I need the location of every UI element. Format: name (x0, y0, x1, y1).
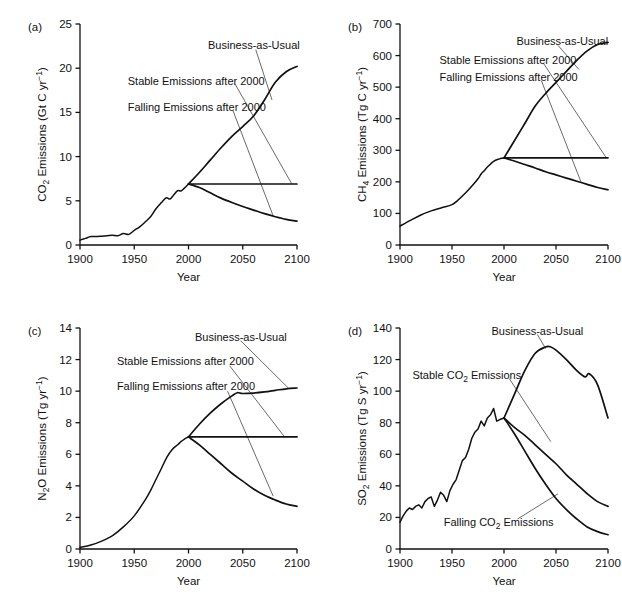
series-annotation-label: Falling CO2 Emissions (444, 516, 554, 531)
annotation-leader-line (509, 379, 551, 442)
series-annotation-label: Stable Emissions after 2000 (128, 75, 265, 87)
series-curve (400, 409, 504, 523)
x-axis-title: Year (177, 575, 200, 587)
series-annotation-label: Stable CO2 Emissions (412, 369, 521, 384)
panel-label: (c) (28, 325, 42, 337)
series-curve (80, 437, 189, 548)
emissions-scenarios-figure: 051015202519001950200020502100YearCO2 Em… (0, 0, 622, 609)
y-tick-label: 20 (379, 511, 392, 523)
x-tick-label: 2050 (230, 557, 256, 569)
y-tick-label: 20 (59, 62, 72, 74)
y-tick-label: 10 (59, 151, 72, 163)
series-curve (189, 184, 298, 221)
series-curve (504, 158, 608, 190)
series-curve (400, 158, 504, 226)
series-annotation-label: Business-as-Usual (208, 39, 300, 51)
y-axis-title: CH4 Emissions (Tg C yr−1) (354, 67, 371, 202)
x-tick-label: 1900 (67, 253, 93, 265)
x-tick-label: 2000 (491, 557, 517, 569)
y-tick-label: 500 (373, 81, 392, 93)
chart-panel-b: 0100200300400500600700190019502000205021… (311, 0, 622, 300)
y-tick-label: 0 (66, 543, 72, 555)
y-tick-label: 15 (59, 106, 72, 118)
y-axis-title: N2O Emissions (Tg yr−1) (34, 376, 51, 501)
x-tick-label: 1900 (67, 557, 93, 569)
x-tick-label: 2100 (595, 253, 621, 265)
chart-panel-a: 051015202519001950200020502100YearCO2 Em… (0, 0, 311, 300)
series-annotation-label: Falling Emissions after 2000 (440, 71, 578, 83)
y-tick-label: 100 (373, 207, 392, 219)
x-axis-title: Year (492, 575, 515, 587)
x-tick-label: 2050 (543, 557, 569, 569)
panel-label: (d) (348, 325, 362, 337)
x-tick-label: 1950 (439, 557, 465, 569)
series-curve (504, 418, 608, 506)
x-tick-label: 2000 (176, 557, 202, 569)
y-tick-label: 100 (373, 385, 392, 397)
y-axis-title: CO2 Emissions (Gt C yr−1) (34, 67, 51, 202)
annotation-leader-line (235, 84, 291, 183)
x-tick-label: 2100 (284, 253, 310, 265)
annotation-leader-line (233, 111, 273, 216)
x-tick-label: 1900 (387, 253, 413, 265)
series-curve (189, 388, 298, 437)
y-tick-label: 14 (59, 322, 72, 334)
y-tick-label: 0 (386, 543, 392, 555)
y-tick-label: 10 (59, 385, 72, 397)
x-tick-label: 1950 (121, 557, 147, 569)
annotation-leader-line (541, 81, 581, 182)
series-curve (80, 184, 189, 240)
y-tick-label: 6 (66, 448, 72, 460)
panel-label: (a) (28, 21, 42, 33)
y-tick-label: 120 (373, 354, 392, 366)
series-curve (189, 437, 298, 506)
x-tick-label: 1950 (121, 253, 147, 265)
y-tick-label: 700 (373, 18, 392, 30)
chart-panel-d: 02040608010012014019001950200020502100Ye… (311, 300, 622, 609)
y-tick-label: 140 (373, 322, 392, 334)
x-tick-label: 1950 (439, 253, 465, 265)
y-tick-label: 60 (379, 448, 392, 460)
series-annotation-label: Business-as-Usual (516, 35, 608, 47)
y-tick-label: 600 (373, 50, 392, 62)
x-axis-title: Year (492, 271, 515, 283)
series-annotation-label: Falling Emissions after 2000 (117, 380, 255, 392)
x-tick-label: 1900 (387, 557, 413, 569)
series-annotation-label: Stable Emissions after 2000 (117, 355, 254, 367)
y-tick-label: 80 (379, 417, 392, 429)
y-tick-label: 2 (66, 511, 72, 523)
y-tick-label: 25 (59, 18, 72, 30)
y-tick-label: 40 (379, 480, 392, 492)
y-tick-label: 4 (66, 480, 73, 492)
x-axis-title: Year (177, 271, 200, 283)
series-annotation-label: Business-as-Usual (492, 325, 584, 337)
y-tick-label: 200 (373, 176, 392, 188)
y-tick-label: 0 (66, 239, 72, 251)
y-tick-label: 400 (373, 113, 392, 125)
annotation-leader-line (230, 366, 284, 436)
series-curve (504, 346, 608, 418)
x-tick-label: 2050 (230, 253, 256, 265)
x-tick-label: 2000 (491, 253, 517, 265)
y-tick-label: 300 (373, 144, 392, 156)
chart-panel-c: 0246810121419001950200020502100YearN2O E… (0, 300, 311, 609)
panel-label: (b) (348, 21, 362, 33)
y-tick-label: 0 (386, 239, 392, 251)
series-annotation-label: Stable Emissions after 2000 (440, 54, 577, 66)
series-annotation-label: Falling Emissions after 2000 (128, 101, 266, 113)
x-tick-label: 2100 (595, 557, 621, 569)
x-tick-label: 2100 (284, 557, 310, 569)
annotation-leader-line (228, 391, 274, 496)
axis-spines (80, 24, 297, 245)
x-tick-label: 2000 (176, 253, 202, 265)
y-tick-label: 8 (66, 417, 72, 429)
y-tick-label: 5 (66, 195, 72, 207)
y-axis-title: SO2 Emissions (Tg S yr−1) (354, 371, 371, 506)
y-tick-label: 12 (59, 354, 72, 366)
series-annotation-label: Business-as-Usual (195, 331, 287, 343)
x-tick-label: 2050 (543, 253, 569, 265)
